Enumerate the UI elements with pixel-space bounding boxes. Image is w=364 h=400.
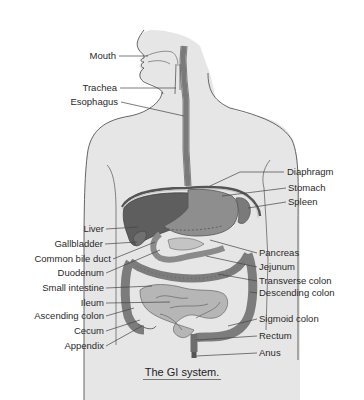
figure-caption: The GI system. <box>0 366 364 378</box>
label-descending-colon: Descending colon <box>259 287 335 298</box>
label-appendix: Appendix <box>64 340 104 351</box>
label-spleen: Spleen <box>288 196 318 207</box>
label-transverse-colon: Transverse colon <box>259 275 332 286</box>
label-anus: Anus <box>259 347 281 358</box>
label-mouth: Mouth <box>90 50 116 61</box>
label-diaphragm: Diaphragm <box>287 166 333 177</box>
label-duodenum: Duodenum <box>58 267 104 278</box>
label-trachea: Trachea <box>83 82 118 93</box>
label-cecum: Cecum <box>74 325 104 336</box>
label-rectum: Rectum <box>259 330 292 341</box>
label-liver: Liver <box>83 223 104 234</box>
label-esophagus: Esophagus <box>70 96 118 107</box>
label-stomach: Stomach <box>288 182 326 193</box>
gi-system-diagram: Mouth Trachea Esophagus Liver Gallbladde… <box>0 0 364 400</box>
label-sigmoid-colon: Sigmoid colon <box>259 313 319 324</box>
label-ileum: Ileum <box>81 297 104 308</box>
label-common-bile-duct: Common bile duct <box>34 253 111 264</box>
label-small-intestine: Small intestine <box>42 282 104 293</box>
caption-text: The GI system. <box>143 366 222 380</box>
label-gallbladder: Gallbladder <box>54 238 103 249</box>
label-pancreas: Pancreas <box>259 247 299 258</box>
label-jejunum: Jejunum <box>259 261 295 272</box>
label-ascending-colon: Ascending colon <box>34 310 104 321</box>
